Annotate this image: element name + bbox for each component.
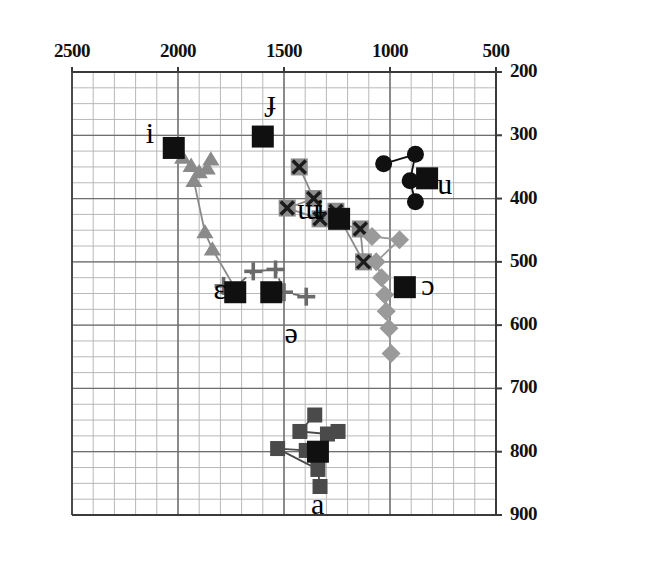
vowel-label-barred-dotless-j: ɟ xyxy=(267,86,277,116)
mean-e xyxy=(224,281,246,303)
mean-barred xyxy=(252,126,274,148)
x-tick-label: 1500 xyxy=(266,40,302,62)
y-tick-label: 800 xyxy=(510,440,537,462)
vowel-label-a: a xyxy=(311,489,324,519)
vowel-label-i: i xyxy=(146,118,154,148)
vowel-formant-chart: 2500200015001000500200300400500600700800… xyxy=(0,0,651,564)
y-tick-label: 500 xyxy=(510,250,537,272)
y-tick-label: 400 xyxy=(510,187,537,209)
x-tick-label: 2000 xyxy=(160,40,196,62)
mean-a xyxy=(307,441,329,463)
mean-i xyxy=(163,137,185,159)
y-tick-label: 600 xyxy=(510,313,537,335)
mean-o xyxy=(394,276,416,298)
y-tick-label: 900 xyxy=(510,503,537,525)
series-i-series xyxy=(174,149,245,296)
mean-schwa xyxy=(260,281,282,303)
plot-canvas xyxy=(0,0,651,564)
vowel-label-u: u xyxy=(437,169,452,199)
mean-turnedm xyxy=(328,208,350,230)
vowel-label-open-e: ɛ xyxy=(214,274,227,304)
x-tick-label: 2500 xyxy=(54,40,90,62)
y-tick-label: 700 xyxy=(510,376,537,398)
y-tick-label: 200 xyxy=(510,60,537,82)
vowel-label-barred-i: ɨ xyxy=(316,194,324,224)
x-tick-label: 500 xyxy=(483,40,510,62)
x-tick-label: 1000 xyxy=(372,40,408,62)
vowel-label-schwa: ə xyxy=(285,318,298,348)
vowel-label-open-o: ɔ xyxy=(421,270,434,300)
y-tick-label: 300 xyxy=(510,123,537,145)
mean-u xyxy=(416,167,438,189)
